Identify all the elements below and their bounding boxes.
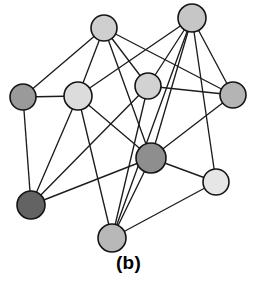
graph-edge	[23, 97, 31, 205]
graph-node[interactable]	[203, 169, 229, 195]
graph-node-circle[interactable]	[136, 143, 166, 173]
graph-edge	[192, 18, 216, 182]
figure-caption: (b)	[0, 252, 257, 274]
graph-node-circle[interactable]	[91, 15, 117, 41]
graph-node-circle[interactable]	[10, 84, 36, 110]
graph-node[interactable]	[136, 143, 166, 173]
graph-edge	[112, 182, 216, 238]
graph-node-circle[interactable]	[64, 82, 92, 110]
graph-node[interactable]	[135, 73, 161, 99]
graph-node[interactable]	[17, 191, 45, 219]
graph-node-circle[interactable]	[17, 191, 45, 219]
graph-node[interactable]	[178, 4, 206, 32]
graph-node[interactable]	[220, 82, 246, 108]
graph-node-circle[interactable]	[98, 224, 126, 252]
graph-node[interactable]	[64, 82, 92, 110]
graph-edge	[78, 96, 112, 238]
graph-edge	[104, 28, 233, 95]
graph-node-circle[interactable]	[135, 73, 161, 99]
graph-node[interactable]	[91, 15, 117, 41]
graph-node-circle[interactable]	[220, 82, 246, 108]
graph-node-circle[interactable]	[203, 169, 229, 195]
edge-layer	[23, 18, 233, 238]
graph-node[interactable]	[98, 224, 126, 252]
graph-node-circle[interactable]	[178, 4, 206, 32]
graph-canvas	[0, 0, 257, 257]
graph-figure: (b)	[0, 0, 257, 282]
graph-node[interactable]	[10, 84, 36, 110]
graph-edge	[112, 18, 192, 238]
